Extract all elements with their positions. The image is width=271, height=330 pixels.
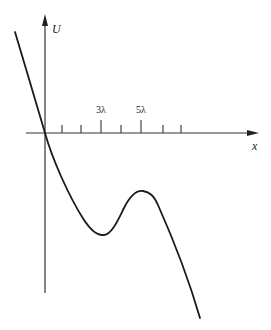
x-axis — [26, 130, 259, 136]
diagram-canvas — [0, 0, 271, 330]
y-axis-label: U — [52, 22, 61, 37]
potential-diagram: U x 3λ 5λ — [0, 0, 271, 330]
y-axis — [42, 14, 48, 293]
x-axis-ticks — [62, 120, 181, 133]
tick-label-3-lambda: 3λ — [96, 104, 106, 115]
x-axis-label: x — [252, 139, 257, 154]
tick-label-5-lambda: 5λ — [136, 104, 146, 115]
potential-curve — [15, 32, 200, 318]
y-axis-arrow-icon — [42, 14, 48, 26]
x-axis-arrow-icon — [247, 130, 259, 136]
